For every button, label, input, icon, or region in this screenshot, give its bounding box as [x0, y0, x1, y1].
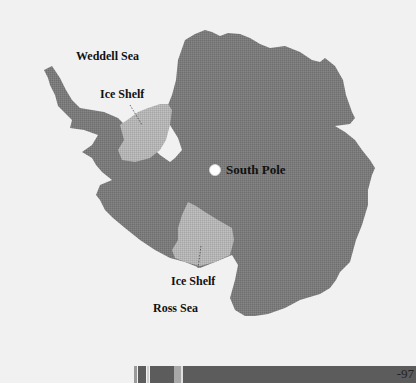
bar-segment — [150, 366, 174, 383]
ice-shelf-upper — [118, 104, 172, 162]
weddell-sea-label: Weddell Sea — [76, 49, 139, 64]
south-pole-marker-icon — [210, 165, 221, 176]
bar-segment — [147, 366, 149, 383]
bar-segment — [134, 366, 137, 383]
ross-sea-label: Ross Sea — [153, 301, 198, 316]
ice-shelf-lower-label: Ice Shelf — [171, 274, 215, 289]
antarctica-map — [0, 0, 416, 383]
bar-segment — [174, 366, 181, 383]
footer-color-bar — [134, 366, 416, 383]
ice-shelf-upper-label: Ice Shelf — [100, 87, 144, 102]
south-pole-label: South Pole — [226, 162, 286, 178]
page-number: -97 — [397, 366, 414, 382]
bar-segment — [138, 366, 146, 383]
bar-segment — [183, 366, 416, 383]
